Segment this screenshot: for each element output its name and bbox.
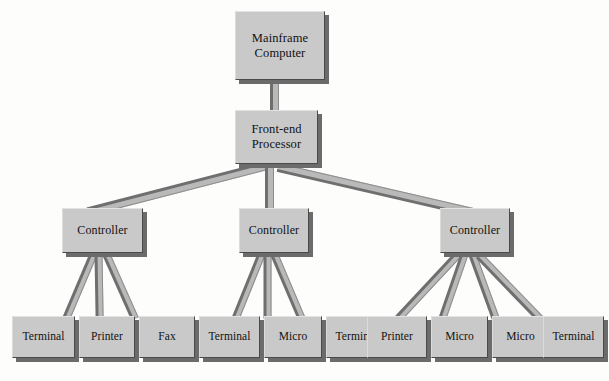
node-mainframe-computer[interactable]: MainframeComputer bbox=[235, 11, 325, 80]
node-controller-1[interactable]: Controller bbox=[62, 208, 143, 253]
node-label: Front-endProcessor bbox=[251, 122, 301, 152]
connector-controller-1-to-device-3 bbox=[106, 253, 139, 319]
connector-controller-2-to-device-6 bbox=[274, 254, 306, 320]
connector-face bbox=[64, 253, 97, 320]
connector-edge bbox=[265, 166, 268, 212]
node-device-printer-2[interactable]: Printer bbox=[367, 316, 427, 358]
node-label: Controller bbox=[249, 223, 299, 237]
node-device-printer-1[interactable]: Printer bbox=[79, 316, 135, 358]
node-front-end-processor[interactable]: Front-endProcessor bbox=[235, 110, 318, 164]
connector-face bbox=[267, 166, 274, 212]
node-label: Terminal bbox=[552, 330, 594, 344]
node-label: MainframeComputer bbox=[252, 31, 308, 61]
network-topology-diagram: MainframeComputer Front-endProcessor Con… bbox=[0, 0, 609, 381]
connector-edge bbox=[63, 252, 93, 318]
connector-controller-2-to-device-5 bbox=[267, 255, 272, 319]
node-device-micro-3[interactable]: Micro bbox=[492, 316, 549, 358]
connector-edge bbox=[271, 255, 301, 321]
node-label: Terminal bbox=[22, 330, 64, 344]
node-label: Micro bbox=[506, 330, 535, 344]
connector-controller-1-to-device-2 bbox=[98, 254, 104, 318]
node-controller-2[interactable]: Controller bbox=[239, 208, 309, 253]
node-label: Fax bbox=[158, 330, 176, 344]
connector-frontend-to-controller-3 bbox=[277, 163, 473, 214]
node-label: Printer bbox=[91, 330, 123, 344]
node-device-micro-1[interactable]: Micro bbox=[264, 316, 322, 358]
node-label: Printer bbox=[381, 330, 413, 344]
node-label: Controller bbox=[77, 223, 127, 237]
node-device-micro-2[interactable]: Micro bbox=[431, 316, 488, 358]
connector-controller-1-to-device-1 bbox=[65, 254, 97, 320]
connector-edge bbox=[87, 160, 271, 210]
node-device-terminal-2[interactable]: Terminal bbox=[199, 316, 260, 358]
connector-frontend-to-controller-2 bbox=[268, 166, 274, 212]
connector-controller-2-to-device-4 bbox=[235, 254, 265, 320]
connector-edge bbox=[103, 256, 134, 321]
node-label: Micro bbox=[445, 330, 474, 344]
node-device-terminal-1[interactable]: Terminal bbox=[12, 316, 75, 358]
node-label: Terminal bbox=[208, 330, 250, 344]
connector-face bbox=[105, 253, 139, 319]
node-device-fax[interactable]: Fax bbox=[139, 316, 195, 358]
connector-face bbox=[234, 253, 265, 319]
connector-face bbox=[273, 254, 306, 321]
connector-edge bbox=[264, 255, 267, 319]
node-controller-3[interactable]: Controller bbox=[440, 208, 510, 253]
node-device-terminal-4[interactable]: Terminal bbox=[543, 316, 604, 358]
connector-edge bbox=[232, 252, 261, 317]
node-label: Micro bbox=[279, 330, 308, 344]
node-label: Controller bbox=[450, 223, 500, 237]
